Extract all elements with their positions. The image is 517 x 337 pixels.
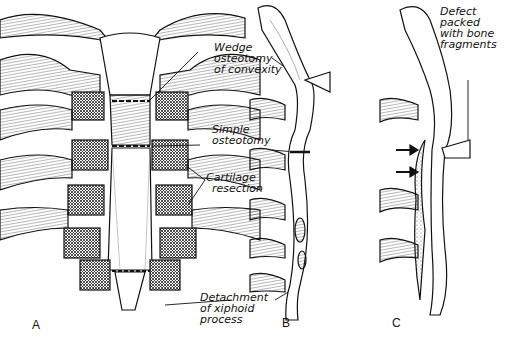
label-defect-packed: Defect packed with bone fragments [440,6,497,50]
label-detachment-xiphoid: Detachment of xiphoid process [200,292,268,325]
panel-label-b: B [282,316,290,330]
label-cartilage-resection: Cartilage resection [206,172,263,194]
panel-label-a: A [32,318,40,332]
panel-label-c: C [392,316,401,330]
label-simple-osteotomy: Simple osteotomy [212,124,271,146]
label-wedge-osteotomy: Wedge osteotomy of convexity [214,42,282,75]
panel-c-drawing [380,7,470,315]
